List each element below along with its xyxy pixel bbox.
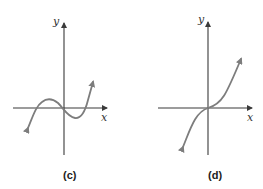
graph-c: y x (c) — [13, 15, 108, 181]
y-label-c: y — [52, 15, 60, 28]
caption-d: (d) — [208, 169, 222, 181]
cubic-curve-c — [28, 82, 93, 128]
graph-d: y x (d) — [158, 13, 254, 181]
caption-c: (c) — [63, 169, 77, 181]
x-label-c: x — [101, 111, 108, 124]
y-label-d: y — [197, 13, 205, 26]
x-label-d: x — [247, 111, 254, 124]
graphs-figure: y x (c) y x (d) — [0, 0, 263, 189]
cubic-curve-d — [183, 59, 241, 147]
